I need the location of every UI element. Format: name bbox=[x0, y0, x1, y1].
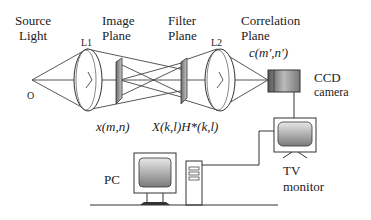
filter-plane-label-line2: Plane bbox=[168, 28, 197, 43]
lens-l2 bbox=[205, 49, 235, 111]
correlation-output-label: c(m',n') bbox=[249, 45, 288, 60]
ccd-label-line2: camera bbox=[314, 85, 349, 99]
lens2-label: L2 bbox=[211, 37, 222, 48]
pc-label: PC bbox=[104, 172, 120, 187]
origin-label: O bbox=[27, 90, 34, 101]
cable-pc-tv bbox=[202, 131, 274, 165]
tv-label-line2: monitor bbox=[283, 179, 325, 194]
image-plane-label-line2: Plane bbox=[102, 28, 131, 43]
optical-correlator-diagram: Source Light Image Plane Filter Plane Co… bbox=[0, 0, 371, 220]
ray-cross-2 bbox=[120, 80, 185, 98]
correlation-plane-label-line1: Correlation bbox=[241, 13, 301, 28]
ray-cross-4 bbox=[120, 65, 185, 96]
ray-cross-3 bbox=[120, 64, 185, 95]
ray-cross-1 bbox=[120, 62, 185, 80]
filter-plane bbox=[181, 58, 187, 104]
pc-tower bbox=[186, 161, 202, 205]
ccd-camera bbox=[268, 70, 300, 92]
image-function-label: x(m,n) bbox=[95, 119, 130, 134]
tv-monitor bbox=[274, 118, 316, 158]
ccd-label-line1: CCD bbox=[314, 70, 341, 85]
image-plane bbox=[116, 58, 122, 104]
ray-l1-bottom bbox=[87, 90, 185, 110]
image-plane-label-line1: Image bbox=[102, 13, 135, 28]
tv-label-line1: TV bbox=[283, 163, 301, 178]
filter-plane-label-line1: Filter bbox=[168, 13, 197, 28]
correlation-plane-label-line2: Plane bbox=[241, 28, 270, 43]
ray-l1-top bbox=[87, 49, 185, 70]
lens-l1 bbox=[74, 49, 102, 111]
filter-function-label: X(k,l)H*(k,l) bbox=[151, 119, 218, 134]
pc-monitor bbox=[134, 153, 176, 205]
source-light-label-line2: Light bbox=[19, 28, 48, 43]
lens1-label: L1 bbox=[81, 37, 92, 48]
source-light-label-line1: Source bbox=[15, 13, 51, 28]
